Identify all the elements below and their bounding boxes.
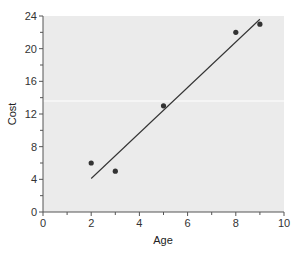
y-tick-label: 12 — [25, 108, 37, 120]
x-axis-label: Age — [153, 234, 173, 246]
data-point — [233, 30, 238, 35]
data-point — [113, 169, 118, 174]
y-tick-label: 8 — [31, 141, 37, 153]
plot-area — [43, 16, 284, 212]
y-tick-label: 4 — [31, 173, 37, 185]
y-tick-label: 0 — [31, 206, 37, 218]
y-axis-label: Cost — [6, 103, 18, 126]
data-point — [257, 22, 262, 27]
data-point — [161, 103, 166, 108]
y-tick-label: 16 — [25, 75, 37, 87]
y-tick-label: 24 — [25, 10, 37, 22]
data-point — [89, 160, 94, 165]
x-tick-label: 6 — [185, 217, 191, 229]
x-tick-label: 0 — [40, 217, 46, 229]
x-tick-label: 8 — [233, 217, 239, 229]
x-tick-label: 4 — [136, 217, 142, 229]
x-tick-label: 10 — [278, 217, 290, 229]
y-tick-label: 20 — [25, 43, 37, 55]
x-tick-label: 2 — [88, 217, 94, 229]
scatter-chart: 024681004812162024 Age Cost — [0, 0, 305, 255]
